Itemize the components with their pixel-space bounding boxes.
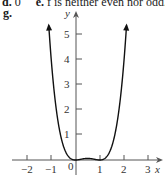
curve-arrow-right-icon xyxy=(123,24,129,31)
x-tick-label: −1 xyxy=(45,163,57,175)
x-tick-label: 2 xyxy=(121,163,127,175)
x-tick-label: 3 xyxy=(145,163,151,175)
x-ticks xyxy=(27,155,148,160)
function-graph: −2 −1 0 1 2 3 x 5 4 3 2 1 y xyxy=(0,0,165,178)
x-tick-label: 1 xyxy=(97,163,103,175)
y-tick-label: 2 xyxy=(64,103,70,115)
curve-arrow-left-icon xyxy=(46,24,52,31)
y-tick-label: 1 xyxy=(64,128,70,140)
y-tick-label: 4 xyxy=(64,53,70,65)
function-curve xyxy=(49,26,127,160)
x-tick-label: 0 xyxy=(68,160,74,172)
y-tick-label: 5 xyxy=(64,28,70,40)
y-tick-label: 3 xyxy=(64,78,70,90)
y-ticks xyxy=(76,34,82,134)
x-tick-label: −2 xyxy=(21,163,33,175)
y-axis-label: y xyxy=(64,7,70,19)
x-axis-label: x xyxy=(154,163,160,175)
